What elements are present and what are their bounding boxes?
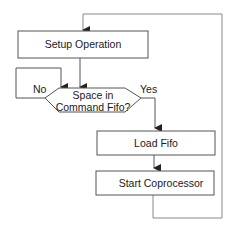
decision-label-line2: Command Fifo? [56, 101, 131, 113]
setup-operation-node: Setup Operation [18, 31, 148, 58]
decision-node: Space in Command Fifo? [45, 88, 141, 113]
load-fifo-node: Load Fifo [97, 131, 215, 155]
setup-operation-label: Setup Operation [45, 38, 122, 50]
start-coprocessor-label: Start Coprocessor [119, 177, 204, 189]
no-label: No [33, 83, 47, 95]
flowchart-diagram: Setup Operation No Space in Command Fifo… [0, 0, 236, 229]
yes-label: Yes [140, 83, 157, 95]
start-coprocessor-node: Start Coprocessor [96, 171, 214, 195]
decision-label-line1: Space in [73, 89, 114, 101]
yes-connector [141, 98, 155, 128]
load-fifo-label: Load Fifo [134, 137, 178, 149]
